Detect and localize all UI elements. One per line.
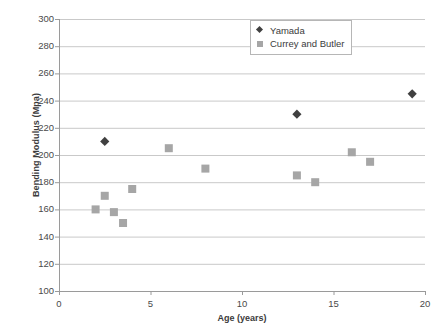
legend-entry-currey-and-butler: Currey and Butler <box>256 37 344 50</box>
legend-label: Yamada <box>270 25 305 36</box>
legend-entry-yamada: Yamada <box>256 24 344 37</box>
scatter-chart: 100120140160180200220240260280300 051015… <box>0 0 441 334</box>
legend-label: Currey and Butler <box>270 38 344 49</box>
x-axis-tick-label: 0 <box>44 298 74 309</box>
square-icon <box>256 39 265 48</box>
y-axis-title: Bending Modulus (Mpa) <box>31 45 41 245</box>
chart-legend: Yamada Currey and Butler <box>250 20 352 55</box>
x-axis-tick-labels: 05101520 <box>0 0 441 334</box>
diamond-icon <box>256 26 265 35</box>
x-axis-tick-label: 15 <box>319 298 349 309</box>
x-axis-title: Age (years) <box>59 313 425 323</box>
x-axis-tick-label: 10 <box>227 298 257 309</box>
x-axis-tick-label: 20 <box>410 298 440 309</box>
x-axis-tick-label: 5 <box>136 298 166 309</box>
